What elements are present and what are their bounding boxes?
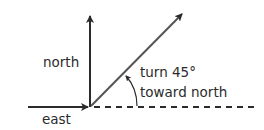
direction-diagram: north east turn 45° toward north <box>0 0 264 130</box>
angle-arc-arrow <box>126 76 137 106</box>
turn-label-line2: toward north <box>140 84 227 100</box>
north-label: north <box>43 54 79 70</box>
east-label: east <box>42 111 71 127</box>
turn-label-line1: turn 45° <box>140 64 196 80</box>
